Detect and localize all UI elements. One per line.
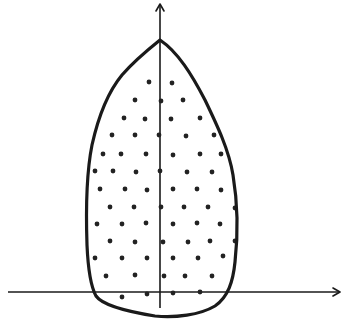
dot [171, 291, 176, 296]
dot [171, 222, 176, 227]
dot [93, 169, 98, 174]
dot [185, 170, 190, 175]
dot [145, 256, 150, 261]
dot [158, 169, 163, 174]
dot [133, 273, 138, 278]
dot [144, 152, 149, 157]
dot [147, 80, 152, 85]
dot [208, 239, 213, 244]
diagram-canvas [0, 0, 350, 322]
dot [206, 205, 211, 210]
dot [101, 152, 106, 157]
dot [218, 222, 223, 227]
dot [134, 170, 139, 175]
dot [104, 274, 109, 279]
dot [95, 222, 100, 227]
dot [183, 274, 188, 279]
dot [133, 240, 138, 245]
dot [108, 205, 113, 210]
dot-pattern [93, 80, 238, 300]
dot [120, 295, 125, 300]
dot [196, 256, 201, 261]
dot [145, 188, 150, 193]
dot [133, 98, 138, 103]
dot [169, 117, 174, 122]
dot [186, 240, 191, 245]
dot [212, 133, 217, 138]
dot [144, 221, 149, 226]
dot [195, 187, 200, 192]
dot [195, 221, 200, 226]
dot [219, 152, 224, 157]
dot [159, 205, 164, 210]
dot [170, 81, 175, 86]
dot [219, 188, 224, 193]
dot [157, 133, 162, 138]
dot [133, 133, 138, 138]
dot [111, 169, 116, 174]
dot [93, 256, 98, 261]
dot [119, 152, 124, 157]
dot [145, 292, 150, 297]
dot [184, 134, 189, 139]
dot [181, 98, 186, 103]
dot [122, 116, 127, 121]
dot [221, 254, 226, 259]
dot [182, 205, 187, 210]
dot [198, 152, 203, 157]
dot [108, 239, 113, 244]
dot [143, 117, 148, 122]
region-diagram [0, 0, 350, 322]
dot [198, 290, 203, 295]
dot [159, 99, 164, 104]
dot [171, 153, 176, 158]
dot [171, 256, 176, 261]
dot [123, 187, 128, 192]
dot [120, 222, 125, 227]
dot [198, 116, 203, 121]
dot [98, 187, 103, 192]
dot [120, 256, 125, 261]
dot [210, 274, 215, 279]
dot [110, 133, 115, 138]
dot [132, 205, 137, 210]
dot [162, 274, 167, 279]
dot [161, 240, 166, 245]
dot [171, 187, 176, 192]
dot [210, 170, 215, 175]
